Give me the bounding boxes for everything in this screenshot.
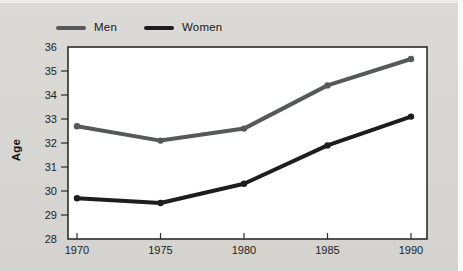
y-tick-label: 31 (45, 161, 57, 173)
data-point-women (324, 142, 330, 148)
y-tick-label: 36 (45, 41, 57, 53)
data-point-men (408, 56, 414, 62)
x-tick-label: 1980 (232, 244, 256, 256)
x-tick-label: 1975 (148, 244, 172, 256)
data-point-men (241, 125, 247, 131)
y-tick-label: 33 (45, 113, 57, 125)
y-tick-label: 32 (45, 137, 57, 149)
data-point-women (157, 200, 163, 206)
y-tick-label: 30 (45, 185, 57, 197)
x-tick-label: 1970 (65, 244, 89, 256)
data-point-women (74, 195, 80, 201)
y-tick-label: 28 (45, 233, 57, 245)
data-point-men (324, 82, 330, 88)
y-tick-label: 34 (45, 89, 57, 101)
data-point-women (241, 181, 247, 187)
x-tick-label: 1990 (399, 244, 423, 256)
chart-canvas: 28293031323334353619701975198019851990 (0, 0, 463, 271)
plot-frame (68, 47, 427, 239)
figure: Men Women Age 28293031323334353619701975… (0, 0, 463, 271)
y-tick-label: 29 (45, 209, 57, 221)
data-point-women (408, 113, 414, 119)
y-tick-label: 35 (45, 65, 57, 77)
data-point-men (157, 137, 163, 143)
data-point-men (74, 123, 80, 129)
x-tick-label: 1985 (315, 244, 339, 256)
